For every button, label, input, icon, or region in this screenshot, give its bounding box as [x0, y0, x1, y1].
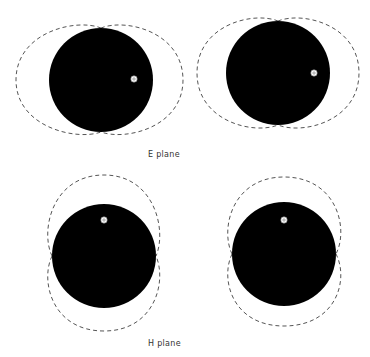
sphere-body	[49, 28, 153, 132]
h-plane-label: H plane	[148, 339, 181, 348]
panel-h-plane-right	[228, 177, 341, 326]
feed-point-icon	[311, 70, 317, 76]
diagram-canvas	[0, 0, 370, 357]
radiation-pattern-diagram: E plane H plane	[0, 0, 370, 357]
feed-point-icon	[281, 217, 287, 223]
panel-e-plane-right	[197, 18, 359, 128]
panel-e-plane-left	[16, 25, 183, 135]
e-plane-label: E plane	[148, 150, 180, 159]
panel-h-plane-left	[48, 175, 160, 331]
feed-point-icon	[131, 76, 137, 82]
feed-point-icon	[101, 217, 107, 223]
